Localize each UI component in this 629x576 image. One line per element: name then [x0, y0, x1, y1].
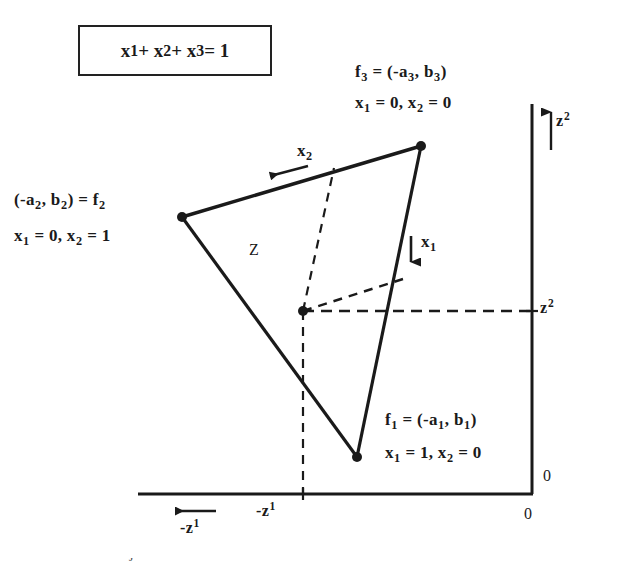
vertex-label-f2: (-a2, b2) = f2 [14, 190, 106, 213]
vertex-dot-f1 [352, 452, 362, 462]
axis-ticks [303, 311, 538, 500]
vertex-conditions-f3: x1 = 0, x2 = 0 [355, 93, 452, 116]
edge-f2-f1 [182, 217, 357, 457]
interior-point-dot-z [298, 306, 308, 316]
vertex-conditions-f1: x1 = 1, x2 = 0 [385, 443, 482, 466]
axis-origin-label-horizontal: 0 [524, 505, 532, 523]
direction-label-x2: x2 [297, 141, 313, 164]
vertex-dot-f3 [416, 141, 426, 151]
vertex-label-f1: f1 = (-a1, b1) [385, 410, 477, 433]
region-label-z: Z [249, 241, 259, 259]
direction-label-x1: x1 [421, 232, 437, 255]
axis-label-z2: z2 [556, 110, 570, 130]
vertex-label-f3: f3 = (-a3, b3) [355, 62, 447, 85]
diagram-svg [0, 0, 629, 576]
vertex-dot-f2 [177, 212, 187, 222]
vertex-conditions-f2: x1 = 0, x2 = 1 [14, 226, 111, 249]
axis-origin-label-vertical: 0 [543, 467, 551, 485]
axis-value-label-negz1: -z1 [256, 500, 276, 520]
constraint-equation-box: x1 + x2 + x3 = 1 [78, 25, 272, 76]
constraint-equation-text: x1 + x2 + x3 = 1 [80, 27, 270, 74]
dashed-to-edge-f2f3 [303, 168, 334, 311]
axis-label-negz1: -z1 [180, 517, 200, 537]
axis-value-label-z2: z2 [540, 297, 554, 317]
constraint-direction-arrows [270, 166, 411, 262]
x2-direction-arrow-icon [270, 166, 308, 176]
caption-text: t d bl ti i t d bj ti f ti [38, 558, 172, 562]
axis-lines [138, 104, 533, 494]
figure-canvas: x1 + x2 + x3 = 1 f3 = (-a3, b3) x1 = 0, … [0, 0, 629, 576]
caption-clipped-strip: t d bl ti i t d bj ti f ti [0, 558, 629, 576]
